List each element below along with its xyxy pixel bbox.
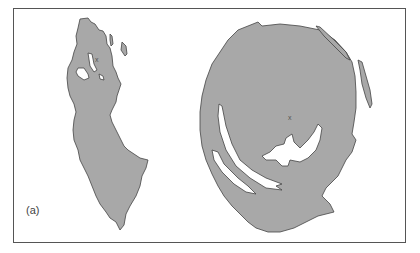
figure-shapes: x x	[0, 0, 420, 253]
left-sliver-1	[110, 34, 113, 46]
left-sliver-2	[121, 42, 127, 56]
panel-label: (a)	[26, 204, 39, 216]
marker-left: x	[95, 56, 99, 63]
right-sliver-2	[358, 60, 372, 108]
left-shape	[67, 18, 148, 230]
marker-right: x	[288, 114, 292, 121]
